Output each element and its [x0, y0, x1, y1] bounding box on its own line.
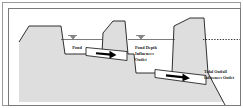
label-pond-depth-influences-outlet: Pond Depth Influences Outlet [135, 45, 157, 62]
figure-inner-border: Pond Pond Depth Influences Outlet Tidal … [8, 8, 241, 106]
water-surface-triangle-icon-pond [68, 36, 77, 40]
cross-section-diagram: Pond Pond Depth Influences Outlet Tidal … [9, 9, 241, 106]
water-surface-triangle-icon-mid [136, 36, 145, 40]
label-tidal-outfall-line-1: Tidal Outfall [204, 69, 228, 74]
label-pond-depth-line-3: Outlet [135, 57, 147, 62]
label-tidal-outfall-influences-outlet: Tidal Outfall Influences Outlet [204, 69, 235, 80]
label-pond: Pond [72, 45, 82, 50]
label-pond-depth-line-2: Influences [135, 51, 154, 56]
label-tidal-outfall-line-2: Influences Outlet [204, 75, 235, 80]
label-pond-depth-line-1: Pond Depth [135, 45, 157, 50]
figure-outer-border: Pond Pond Depth Influences Outlet Tidal … [2, 2, 241, 106]
figure-frame: Pond Pond Depth Influences Outlet Tidal … [0, 0, 243, 108]
